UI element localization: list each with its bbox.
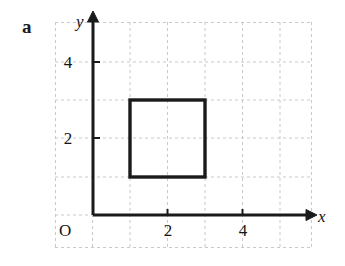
plot-area: 2 4 2 4 O x y [55,22,312,248]
x-axis-label: x [318,208,326,225]
origin-label: O [59,222,71,239]
y-axis-arrowhead [88,11,99,22]
x-tick-label-4: 4 [224,222,262,239]
y-tick-label-4: 4 [53,54,83,71]
square-outline [130,100,205,177]
x-tick-label-2: 2 [149,222,187,239]
square-shape [55,22,312,248]
figure-root: a [0,0,345,266]
y-tick-label-2: 2 [53,130,83,147]
y-axis-label: y [76,13,84,30]
part-label: a [22,17,32,36]
